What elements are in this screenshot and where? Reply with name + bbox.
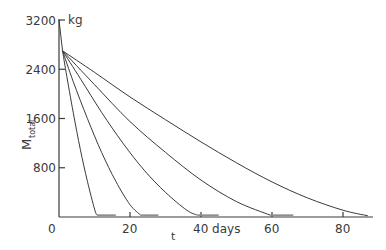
- curve-3: [63, 51, 198, 215]
- x-tick-label: 80: [335, 222, 350, 236]
- y-tick-label: 2400: [25, 63, 56, 77]
- chart-svg: 800160024003200 2040 days6080 kg 0 t M t…: [0, 0, 386, 250]
- axes: [59, 19, 373, 217]
- data-curves: [59, 20, 368, 216]
- x-tick-label: 60: [264, 222, 279, 236]
- x-axis-label: t: [171, 230, 176, 243]
- origin-label: 0: [48, 222, 56, 236]
- curve-2: [63, 51, 141, 215]
- y-tick-label: 3200: [25, 14, 56, 28]
- x-tick-label: 40 days: [193, 222, 240, 236]
- y-axis-label-main: M: [19, 139, 34, 150]
- y-axis-label: M total: [19, 120, 37, 150]
- y-tick-label: 800: [33, 161, 56, 175]
- x-tick-label: 20: [122, 222, 137, 236]
- mass-decay-chart: 800160024003200 2040 days6080 kg 0 t M t…: [0, 0, 386, 250]
- y-axis-label-sub: total: [28, 120, 37, 138]
- y-unit-label: kg: [68, 13, 83, 27]
- curve-5: [63, 51, 368, 216]
- curve-1: [63, 51, 97, 215]
